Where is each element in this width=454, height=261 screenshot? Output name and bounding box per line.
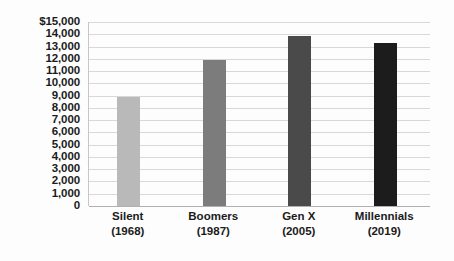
category-name: Gen X xyxy=(256,209,342,224)
y-axis-tick-label: 3,000 xyxy=(52,163,80,175)
x-axis-category-label: Millennials(2019) xyxy=(342,209,428,238)
category-name: Millennials xyxy=(342,209,428,224)
plot-area xyxy=(88,22,430,206)
x-axis-category-label: Silent(1968) xyxy=(85,209,171,238)
x-axis: Silent(1968)Boomers(1987)Gen X(2005)Mill… xyxy=(88,209,430,257)
category-name: Silent xyxy=(85,209,171,224)
bar-gen-x xyxy=(288,36,311,207)
y-axis-tick-label: 14,000 xyxy=(45,29,80,41)
category-year: (2005) xyxy=(256,224,342,239)
y-axis-tick-label: 13,000 xyxy=(45,41,80,53)
y-axis-tick-label: 11,000 xyxy=(46,65,80,77)
axis-baseline xyxy=(89,206,430,207)
y-axis-tick-label: 5,000 xyxy=(52,139,80,151)
x-axis-category-label: Gen X(2005) xyxy=(256,209,342,238)
y-axis-tick-label: 8,000 xyxy=(52,102,80,114)
y-axis-tick-label: 7,000 xyxy=(52,114,80,126)
bar-silent xyxy=(117,97,140,206)
y-axis-tick-label: 4,000 xyxy=(52,151,80,163)
bar-millennials xyxy=(374,43,397,206)
bars-group xyxy=(89,22,430,206)
x-axis-category-label: Boomers(1987) xyxy=(171,209,257,238)
category-year: (1987) xyxy=(171,224,257,239)
y-axis-tick-label: 9,000 xyxy=(52,90,80,102)
y-axis-tick-label: 0 xyxy=(74,200,80,212)
y-axis-tick-label: 12,000 xyxy=(45,53,80,65)
y-axis-tick-label: $15,000 xyxy=(39,16,80,28)
y-axis: $15,00014,00013,00012,00011,00010,0009,0… xyxy=(0,22,84,206)
y-axis-tick-label: 1,000 xyxy=(52,188,80,200)
category-year: (1968) xyxy=(85,224,171,239)
bar-boomers xyxy=(203,60,226,206)
category-year: (2019) xyxy=(342,224,428,239)
y-axis-tick-label: 2,000 xyxy=(52,176,80,188)
y-axis-tick-label: 10,000 xyxy=(45,78,80,90)
category-name: Boomers xyxy=(171,209,257,224)
bar-chart: $15,00014,00013,00012,00011,00010,0009,0… xyxy=(0,0,454,261)
y-axis-tick-label: 6,000 xyxy=(52,127,80,139)
